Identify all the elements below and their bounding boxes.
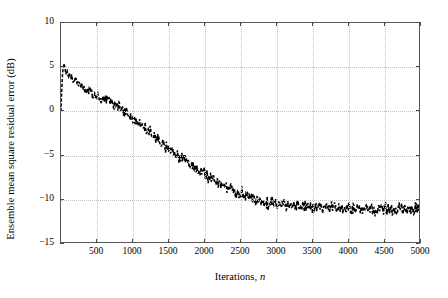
x-axis-tick-top (240, 22, 241, 26)
x-axis-tick (384, 239, 385, 243)
x-axis-tick (240, 239, 241, 243)
x-axis-tick-top (204, 22, 205, 26)
gridline-vertical (241, 23, 242, 242)
y-axis-tick-right (416, 199, 420, 200)
y-axis-tick (60, 243, 64, 244)
gridline-vertical (97, 23, 98, 242)
x-axis-tick (132, 239, 133, 243)
y-axis-tick (60, 199, 64, 200)
y-axis-tick-label: 5 (28, 60, 54, 70)
y-axis-tick-label: 10 (28, 16, 54, 26)
gridline-vertical (133, 23, 134, 242)
y-axis-tick-right (416, 243, 420, 244)
x-axis-tick (96, 239, 97, 243)
x-axis-tick-top (276, 22, 277, 26)
y-axis-tick (60, 22, 64, 23)
x-axis-tick-top (384, 22, 385, 26)
gridline-vertical (205, 23, 206, 242)
y-axis-tick-right (416, 110, 420, 111)
x-axis-tick (348, 239, 349, 243)
x-axis-tick-label: 5000 (398, 246, 442, 256)
x-axis-tick-top (132, 22, 133, 26)
gridline-vertical (349, 23, 350, 242)
x-axis-tick (204, 239, 205, 243)
x-axis-tick (312, 239, 313, 243)
plot-area (60, 22, 420, 243)
figure: Ensemble mean square residual error (dB)… (0, 0, 448, 298)
y-axis-tick-label: 0 (28, 104, 54, 114)
y-axis-tick (60, 155, 64, 156)
y-axis-label: Ensemble mean square residual error (dB) (0, 0, 20, 298)
y-axis-tick-right (416, 66, 420, 67)
x-axis-tick-top (348, 22, 349, 26)
gridline-vertical (277, 23, 278, 242)
y-axis-tick-right (416, 155, 420, 156)
x-axis-tick (168, 239, 169, 243)
y-axis-tick-label: −10 (28, 193, 54, 203)
x-axis-tick-top (96, 22, 97, 26)
y-axis-tick-label: −15 (28, 237, 54, 247)
gridline-horizontal (61, 67, 419, 68)
x-axis-tick-top (168, 22, 169, 26)
y-axis-tick (60, 66, 64, 67)
x-axis-tick-top (420, 22, 421, 26)
x-axis-tick-top (312, 22, 313, 26)
y-axis-tick-right (416, 22, 420, 23)
x-axis-tick (420, 239, 421, 243)
gridline-horizontal (61, 156, 419, 157)
x-axis-label-variable: n (260, 271, 265, 282)
gridline-vertical (385, 23, 386, 242)
x-axis-label-text: Iterations, (215, 271, 257, 282)
x-axis-label: Iterations,n (60, 271, 420, 282)
y-axis-tick-label: −5 (28, 149, 54, 159)
gridline-vertical (313, 23, 314, 242)
gridline-horizontal (61, 111, 419, 112)
gridline-vertical (169, 23, 170, 242)
gridline-horizontal (61, 200, 419, 201)
y-axis-tick (60, 110, 64, 111)
x-axis-tick (276, 239, 277, 243)
